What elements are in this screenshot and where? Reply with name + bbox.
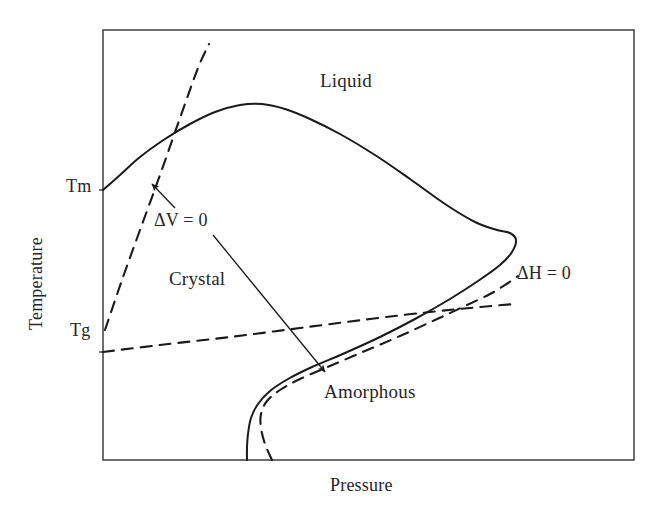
curve-group [103, 44, 518, 460]
region-label-amorphous: Amorphous [324, 381, 416, 403]
annotation-delta-v-upper-arrow [152, 184, 175, 208]
curve-melting-crystallization-boundary [103, 104, 516, 460]
y-axis-title: Temperature [26, 237, 47, 330]
y-tick-label-tm: Tm [66, 176, 91, 197]
annotation-delta-h-zero: ΔH = 0 [517, 263, 571, 284]
annotation-delta-v-zero: ΔV = 0 [154, 210, 208, 231]
phase-diagram-figure: Liquid Crystal Amorphous ΔV = 0 ΔH = 0 T… [0, 0, 666, 512]
y-tick-label-tg: Tg [70, 320, 90, 341]
region-label-liquid: Liquid [320, 70, 372, 92]
annotation-delta-v-lower-arrow [213, 235, 325, 372]
region-label-crystal: Crystal [169, 268, 225, 290]
x-axis-title: Pressure [330, 475, 393, 496]
curve-amorphous-boundary-dashed [260, 276, 518, 460]
